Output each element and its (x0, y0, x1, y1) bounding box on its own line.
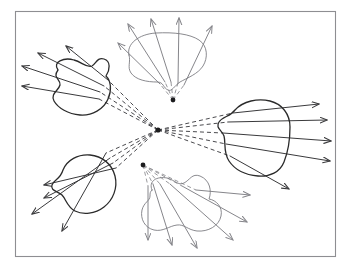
radiation-diagram (0, 0, 353, 269)
bottom-middle-source (141, 163, 146, 168)
top-middle-source (171, 98, 176, 103)
central-source (155, 127, 160, 132)
figure-page (0, 0, 353, 269)
